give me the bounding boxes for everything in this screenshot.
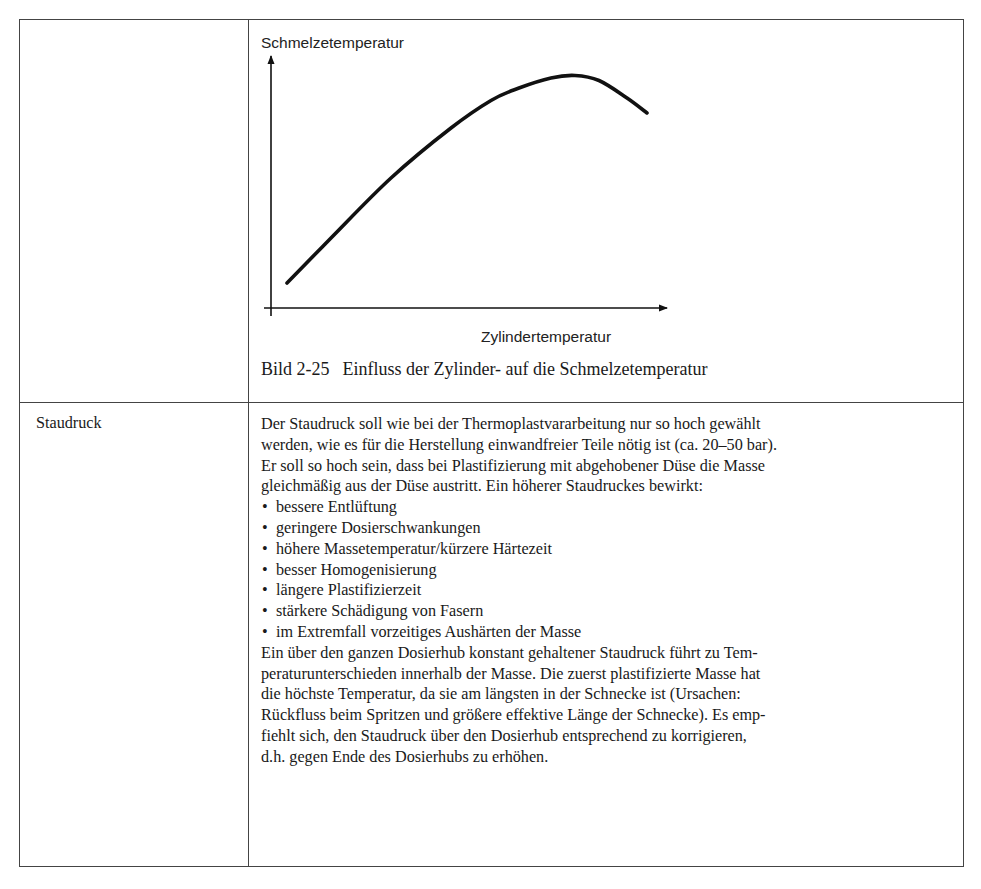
bullet-icon: •	[262, 580, 268, 601]
effects-list-item-text: stärkere Schädigung von Fasern	[276, 602, 483, 620]
description-line: werden, wie es für die Herstellung einwa…	[261, 435, 961, 456]
description-line: die höchste Temperatur, da sie am längst…	[261, 684, 961, 705]
bullet-icon: •	[262, 539, 268, 560]
description-outro: Ein über den ganzen Dosierhub konstant g…	[261, 643, 961, 768]
figure-caption-number: Bild 2-25	[261, 359, 330, 379]
effects-list-item: •besser Homogenisierung	[261, 560, 961, 581]
effects-list-item: •längere Plastifizierzeit	[261, 580, 961, 601]
description-line: Er soll so hoch sein, dass bei Plastifiz…	[261, 456, 961, 477]
description-line: d.h. gegen Ende des Dosierhubs zu erhöhe…	[261, 747, 961, 768]
description-line: Rückfluss beim Spritzen und größere effe…	[261, 705, 961, 726]
description-line: Ein über den ganzen Dosierhub konstant g…	[261, 643, 961, 664]
description-line: gleichmäßig aus der Düse austritt. Ein h…	[261, 476, 961, 497]
effects-list-item-text: im Extremfall vorzeitiges Aushärten der …	[276, 623, 581, 641]
description-line: peraturunterschieden innerhalb der Masse…	[261, 664, 961, 685]
effects-list-item-text: geringere Dosierschwankungen	[276, 519, 481, 537]
effects-list-item-text: höhere Massetemperatur/kürzere Härtezeit	[276, 540, 552, 558]
x-axis-label: Zylindertemperatur	[481, 328, 611, 345]
chart-svg: Schmelzetemperatur Zylindertemperatur	[249, 20, 963, 352]
bullet-icon: •	[262, 560, 268, 581]
parameter-table: Schmelzetemperatur Zylindertemperatur Bi…	[19, 19, 964, 867]
figure-caption: Bild 2-25Einfluss der Zylinder- auf die …	[261, 359, 708, 380]
description-line: Der Staudruck soll wie bei der Thermopla…	[261, 414, 961, 435]
figure-caption-text: Einfluss der Zylinder- auf die Schmelzet…	[343, 359, 708, 379]
effects-list-item: •bessere Entlüftung	[261, 497, 961, 518]
effects-list-item: •im Extremfall vorzeitiges Aushärten der…	[261, 622, 961, 643]
y-axis-label: Schmelzetemperatur	[261, 34, 404, 51]
row-divider	[20, 402, 963, 403]
bullet-icon: •	[262, 518, 268, 539]
bullet-icon: •	[262, 601, 268, 622]
effects-list-item: •geringere Dosierschwankungen	[261, 518, 961, 539]
description-line: fiehlt sich, den Staudruck über den Dosi…	[261, 726, 961, 747]
figure-chart: Schmelzetemperatur Zylindertemperatur	[249, 20, 963, 352]
parameter-description: Der Staudruck soll wie bei der Thermopla…	[261, 414, 961, 768]
effects-list-item-text: besser Homogenisierung	[276, 561, 437, 579]
bullet-icon: •	[262, 622, 268, 643]
effects-list-item: •stärkere Schädigung von Fasern	[261, 601, 961, 622]
effects-list-item-text: bessere Entlüftung	[276, 498, 397, 516]
bullet-icon: •	[262, 497, 268, 518]
effects-list: •bessere Entlüftung•geringere Dosierschw…	[261, 497, 961, 643]
description-intro: Der Staudruck soll wie bei der Thermopla…	[261, 414, 961, 497]
effects-list-item-text: längere Plastifizierzeit	[276, 581, 421, 599]
parameter-label-staudruck: Staudruck	[36, 414, 102, 433]
effects-list-item: •höhere Massetemperatur/kürzere Härtezei…	[261, 539, 961, 560]
series-line-schmelzetemperatur	[287, 75, 647, 283]
